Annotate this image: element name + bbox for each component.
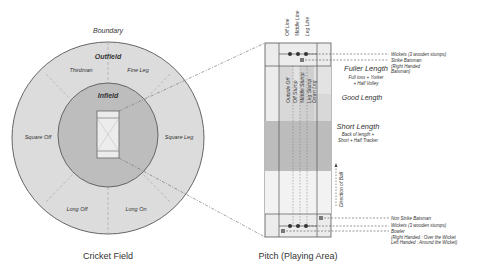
col-label-off-stump: Off Stump	[292, 80, 298, 103]
pitch-caption: Pitch (Playing Area)	[258, 251, 337, 261]
wicket-stump-icon	[304, 52, 308, 56]
infield-label: Infield	[98, 92, 119, 99]
non-strike-batsman-icon	[319, 216, 323, 220]
wicket-stump-icon	[288, 52, 292, 56]
cricket-field: Boundary Outfield Infield Thirdman Fine …	[12, 27, 204, 261]
line-label-leg: Leg Line	[304, 17, 310, 36]
wicket-stump-icon	[296, 52, 300, 56]
wicket-stump-icon	[296, 224, 300, 228]
position-fine-leg: Fine Leg	[127, 67, 149, 73]
callout-strike-note2: Batsman)	[391, 69, 411, 74]
field-caption: Cricket Field	[83, 251, 133, 261]
col-label-middle-stump: Middle Stump	[299, 72, 305, 103]
zone-fuller-sub1: Full toss + Yorker	[349, 75, 384, 80]
zone-short-sub2: Short + Half Tracker	[338, 138, 379, 143]
strike-batsman-icon	[300, 58, 304, 62]
position-square-leg: Square Leg	[165, 134, 194, 140]
wicket-stump-icon	[304, 224, 308, 228]
zone-near-bowler	[265, 171, 331, 214]
zone-short	[265, 121, 331, 171]
position-long-off: Long Off	[66, 206, 88, 212]
zone-short-title: Short Length	[337, 122, 380, 131]
pitch-detail: Off Line Middle Line Leg Line Outside Of…	[265, 10, 388, 237]
callout-non-strike: Non Strike Batsman	[391, 216, 432, 221]
cricket-diagram: Boundary Outfield Infield Thirdman Fine …	[0, 0, 478, 274]
callout-bowler: Bowler	[391, 229, 405, 234]
col-label-down-leg: Down Leg	[311, 80, 317, 103]
zone-short-sub1: Back of length +	[342, 132, 375, 137]
callout-wickets-top: Wickets (3 wooden stumps)	[391, 52, 447, 57]
line-label-middle: Middle Line	[294, 10, 300, 36]
zone-good-title: Good Length	[342, 94, 383, 102]
position-thirdman: Thirdman	[69, 67, 92, 73]
wicket-stump-icon	[288, 224, 292, 228]
col-label-outside-off: Outside Off	[285, 77, 291, 103]
callout-wickets-bottom: Wickets (3 wooden stumps)	[391, 223, 447, 228]
outfield-label: Outfield	[95, 53, 122, 60]
zone-fuller-title: Fuller Length	[344, 64, 388, 73]
position-square-off: Square Off	[25, 134, 52, 140]
direction-label: Direction of Ball	[338, 171, 344, 207]
zone-fuller-sub2: + Half Volley	[353, 81, 379, 86]
position-long-on: Long On	[125, 206, 146, 212]
callout-strike-batsman: Strike Batsman	[391, 58, 422, 63]
callout-bowler-note2: Left Handed : Around the Wicket)	[391, 240, 458, 245]
direction-arrow-icon	[335, 163, 338, 167]
boundary-label: Boundary	[93, 27, 123, 35]
bowler-icon	[281, 229, 285, 233]
line-label-off: Off Line	[284, 18, 290, 36]
